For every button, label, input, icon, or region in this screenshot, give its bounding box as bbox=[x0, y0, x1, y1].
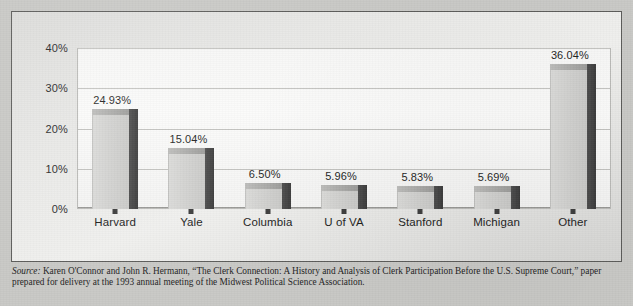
bar-front-face bbox=[168, 154, 205, 209]
source-label: Source: bbox=[12, 266, 41, 276]
y-tick-label: 20% bbox=[45, 123, 68, 135]
x-tick-mark bbox=[189, 209, 194, 214]
bar bbox=[397, 186, 443, 209]
x-tick-label: Yale bbox=[180, 216, 203, 228]
bar-side-face bbox=[587, 64, 596, 209]
x-tick-label: Columbia bbox=[243, 216, 292, 228]
bar-value-label: 5.83% bbox=[401, 171, 433, 183]
y-axis: 0%10%20%30%40% bbox=[12, 48, 72, 209]
bar-top-face bbox=[321, 185, 358, 191]
x-tick-mark bbox=[570, 209, 575, 214]
y-tick-label: 30% bbox=[45, 82, 68, 94]
bar-top-face bbox=[245, 183, 282, 189]
bar-side-face bbox=[282, 183, 291, 209]
bar-series: 24.93%15.04%6.50%5.96%5.83%5.69%36.04% bbox=[77, 48, 611, 209]
bar-side-face bbox=[511, 186, 520, 209]
x-tick-label: Stanford bbox=[398, 216, 442, 228]
bar-top-face bbox=[397, 186, 434, 192]
bar bbox=[474, 186, 520, 209]
bar-top-face bbox=[550, 64, 587, 70]
bar bbox=[550, 64, 596, 209]
x-tick-mark bbox=[494, 209, 499, 214]
bar-value-label: 24.93% bbox=[93, 94, 131, 106]
bar-value-label: 6.50% bbox=[249, 168, 281, 180]
bar-side-face bbox=[358, 185, 367, 209]
y-tick-label: 40% bbox=[45, 42, 68, 54]
bar-front-face bbox=[92, 115, 129, 209]
x-tick-label: Harvard bbox=[94, 216, 136, 228]
x-tick-mark bbox=[113, 209, 118, 214]
bar bbox=[92, 109, 138, 209]
bar-side-face bbox=[129, 109, 138, 209]
bar-front-face bbox=[321, 191, 358, 209]
figure-sheet: 0%10%20%30%40% 24.93%15.04%6.50%5.96%5.8… bbox=[0, 0, 633, 306]
bar-value-label: 5.96% bbox=[325, 170, 357, 182]
bar-front-face bbox=[397, 192, 434, 209]
source-text: Karen O'Connor and John R. Hermann, “The… bbox=[12, 266, 601, 287]
bar bbox=[321, 185, 367, 209]
source-note: Source: Karen O'Connor and John R. Herma… bbox=[12, 266, 622, 288]
x-tick-mark bbox=[342, 209, 347, 214]
x-tick-mark bbox=[418, 209, 423, 214]
x-tick-label: Michigan bbox=[473, 216, 520, 228]
bar-value-label: 36.04% bbox=[551, 49, 589, 61]
bar-side-face bbox=[434, 186, 443, 209]
bar-front-face bbox=[474, 192, 511, 209]
x-tick-label: U of VA bbox=[324, 216, 363, 228]
x-tick-mark bbox=[265, 209, 270, 214]
y-tick-label: 10% bbox=[45, 163, 68, 175]
y-tick-label: 0% bbox=[52, 203, 68, 215]
bar-top-face bbox=[474, 186, 511, 192]
bar bbox=[168, 148, 214, 209]
x-axis-ticks bbox=[77, 209, 611, 215]
chart-frame: 0%10%20%30%40% 24.93%15.04%6.50%5.96%5.8… bbox=[11, 11, 622, 262]
bar-value-label: 15.04% bbox=[169, 133, 207, 145]
bar-front-face bbox=[245, 189, 282, 209]
bar-top-face bbox=[92, 109, 129, 115]
bar bbox=[245, 183, 291, 209]
x-tick-label: Other bbox=[558, 216, 587, 228]
x-axis-labels: HarvardYaleColumbiaU of VAStanfordMichig… bbox=[77, 216, 611, 234]
bar-front-face bbox=[550, 70, 587, 209]
bar-value-label: 5.69% bbox=[478, 171, 510, 183]
bar-side-face bbox=[205, 148, 214, 209]
bar-top-face bbox=[168, 148, 205, 154]
